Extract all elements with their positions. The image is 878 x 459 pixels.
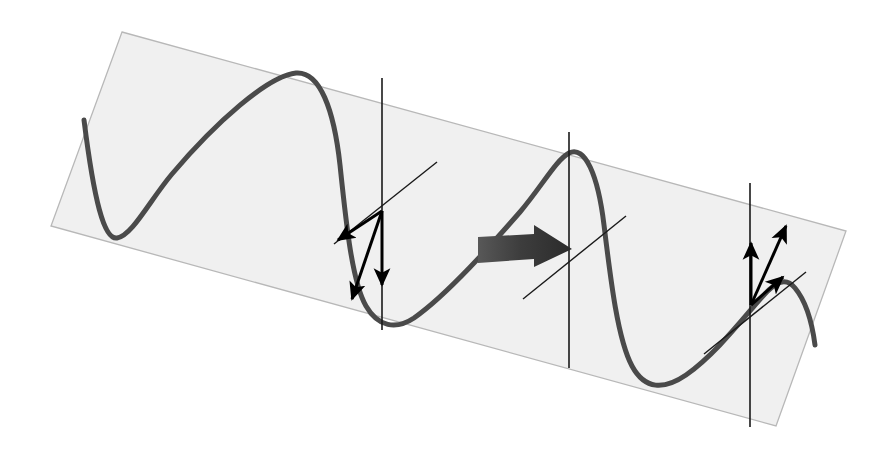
reference-plane: [51, 32, 846, 426]
figure-root: [0, 0, 878, 459]
reference-plane-group: [51, 32, 846, 426]
wave-diagram-svg: [0, 0, 878, 459]
